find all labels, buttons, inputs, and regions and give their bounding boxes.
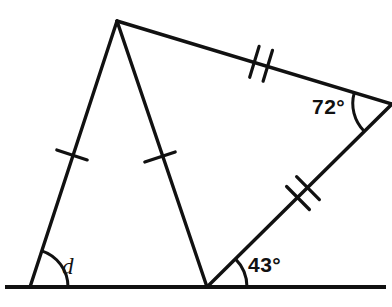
- geometry-canvas: [0, 0, 392, 307]
- geometry-figure: d 43° 72°: [0, 0, 392, 307]
- tick-median-icon: [145, 152, 175, 162]
- angle-arc-mid-base: [235, 259, 247, 287]
- median-segment: [117, 21, 207, 287]
- angle-arc-right-vertex: [353, 93, 364, 131]
- angle-label-43: 43°: [248, 254, 281, 275]
- angle-label-d: d: [62, 255, 74, 278]
- angle-label-72: 72°: [312, 96, 345, 117]
